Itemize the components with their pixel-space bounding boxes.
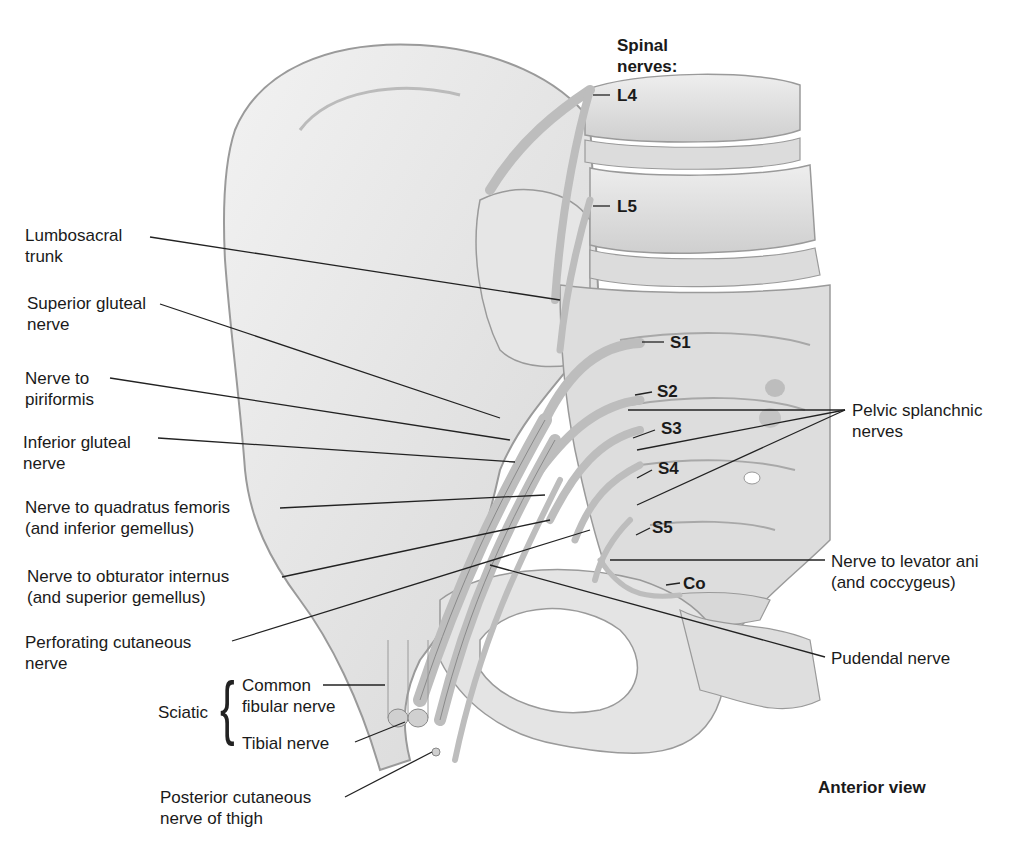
label-nerve-to-piriformis: Nerve to piriformis bbox=[25, 368, 94, 410]
label-line: trunk bbox=[25, 246, 122, 267]
label-line: nerve bbox=[23, 453, 131, 474]
label-superior-gluteal-nerve: Superior gluteal nerve bbox=[27, 293, 146, 335]
label-line: Inferior gluteal bbox=[23, 432, 131, 453]
label-line: (and inferior gemellus) bbox=[25, 518, 230, 539]
label-line: nerves bbox=[852, 421, 982, 442]
level-l5: L5 bbox=[617, 196, 637, 217]
label-line: (and coccygeus) bbox=[831, 572, 978, 593]
label-line: Nerve to quadratus femoris bbox=[25, 497, 230, 518]
label-inferior-gluteal-nerve: Inferior gluteal nerve bbox=[23, 432, 131, 474]
level-s5: S5 bbox=[652, 517, 673, 538]
label-line: Nerve to levator ani bbox=[831, 551, 978, 572]
level-s3: S3 bbox=[661, 418, 682, 439]
label-common-fibular-nerve: Common fibular nerve bbox=[242, 675, 336, 717]
brace-icon: { bbox=[220, 672, 235, 742]
label-line: (and superior gemellus) bbox=[27, 587, 229, 608]
label-pudendal-nerve: Pudendal nerve bbox=[831, 648, 950, 669]
level-l4: L4 bbox=[617, 85, 637, 106]
level-s1: S1 bbox=[670, 332, 691, 353]
label-tibial-nerve: Tibial nerve bbox=[242, 733, 329, 754]
label-line: Common bbox=[242, 675, 336, 696]
label-line: Perforating cutaneous bbox=[25, 632, 191, 653]
heading-line-2: nerves: bbox=[617, 56, 677, 77]
label-line: Pelvic splanchnic bbox=[852, 400, 982, 421]
view-caption: Anterior view bbox=[818, 777, 926, 798]
level-s2: S2 bbox=[657, 381, 678, 402]
label-sciatic: Sciatic bbox=[158, 702, 208, 723]
label-line: piriformis bbox=[25, 389, 94, 410]
level-s4: S4 bbox=[658, 458, 679, 479]
label-nerve-to-obturator-internus: Nerve to obturator internus (and superio… bbox=[27, 566, 229, 608]
label-line: fibular nerve bbox=[242, 696, 336, 717]
label-line: Nerve to bbox=[25, 368, 94, 389]
label-nerve-to-levator-ani: Nerve to levator ani (and coccygeus) bbox=[831, 551, 978, 593]
label-line: nerve bbox=[27, 314, 146, 335]
label-pelvic-splanchnic-nerves: Pelvic splanchnic nerves bbox=[852, 400, 982, 442]
heading-line-1: Spinal bbox=[617, 35, 677, 56]
label-line: Nerve to obturator internus bbox=[27, 566, 229, 587]
label-nerve-to-quadratus-femoris: Nerve to quadratus femoris (and inferior… bbox=[25, 497, 230, 539]
label-line: Superior gluteal bbox=[27, 293, 146, 314]
label-perforating-cutaneous-nerve: Perforating cutaneous nerve bbox=[25, 632, 191, 674]
label-line: nerve of thigh bbox=[160, 808, 311, 829]
label-line: Lumbosacral bbox=[25, 225, 122, 246]
label-line: Posterior cutaneous bbox=[160, 787, 311, 808]
spinal-nerves-heading: Spinal nerves: bbox=[617, 35, 677, 77]
level-co: Co bbox=[683, 573, 706, 594]
label-lumbosacral-trunk: Lumbosacral trunk bbox=[25, 225, 122, 267]
label-posterior-cutaneous-nerve-of-thigh: Posterior cutaneous nerve of thigh bbox=[160, 787, 311, 829]
label-line: nerve bbox=[25, 653, 191, 674]
